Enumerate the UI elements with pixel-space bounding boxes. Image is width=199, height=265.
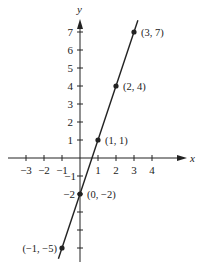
y-tick-label: 7 — [68, 26, 74, 38]
y-tick-label: 6 — [68, 44, 74, 56]
data-point — [113, 83, 118, 88]
point-label: (3, 7) — [141, 27, 164, 39]
y-tick-label: 1 — [68, 134, 74, 146]
y-tick-label: 2 — [68, 116, 74, 128]
x-tick-label: −3 — [20, 164, 32, 176]
ticks: −3−2−11234−2−11234567 — [20, 26, 155, 265]
y-axis-arrow-icon — [77, 19, 83, 29]
x-tick-label: 3 — [131, 164, 137, 176]
data-point — [59, 245, 64, 250]
y-tick-label: 3 — [68, 98, 74, 110]
x-tick-label: 4 — [149, 164, 155, 176]
point-label: (1, 1) — [105, 135, 128, 147]
point-label: (0, −2) — [87, 189, 116, 201]
data-points: (−1, −5)(0, −2)(1, 1)(2, 4)(3, 7) — [22, 27, 164, 255]
x-axis-label: x — [189, 152, 195, 164]
y-axis-label: y — [76, 3, 82, 15]
x-axis-arrow-icon — [177, 155, 187, 161]
data-point — [77, 191, 82, 196]
x-tick-label: 1 — [95, 164, 101, 176]
axes: xy — [8, 3, 195, 262]
data-point — [95, 137, 100, 142]
data-point — [131, 29, 136, 34]
point-label: (−1, −5) — [22, 243, 57, 255]
y-tick-label: 4 — [68, 80, 74, 92]
point-label: (2, 4) — [123, 81, 146, 93]
y-tick-label: 5 — [68, 62, 74, 74]
x-tick-label: 2 — [113, 164, 119, 176]
y-tick-label: −1 — [64, 170, 76, 182]
y-tick-label: −2 — [63, 188, 75, 200]
x-tick-label: −2 — [38, 164, 50, 176]
line-chart: xy −3−2−11234−2−11234567 (−1, −5)(0, −2)… — [0, 0, 199, 265]
